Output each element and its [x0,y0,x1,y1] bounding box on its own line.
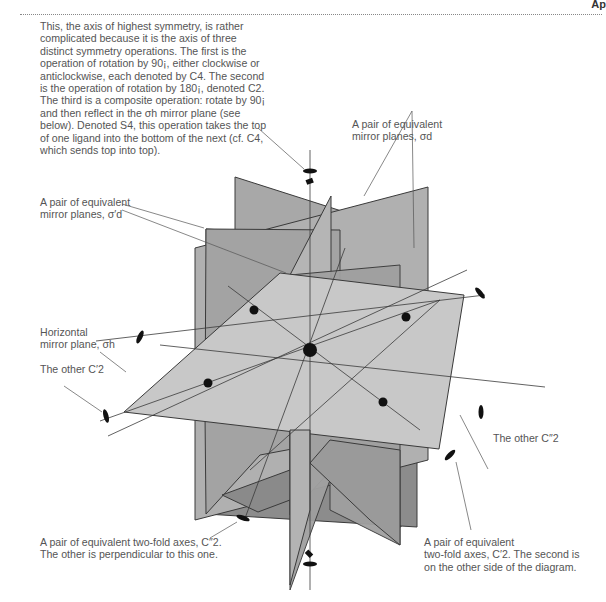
c2-axis-symbol [479,405,484,419]
c2-axis-symbol [443,448,456,461]
c2-axis-symbol [135,330,145,345]
ligand-atom [204,379,213,388]
sigma-d-annotation: A pair of equivalent mirror planes, σd [352,118,442,143]
other-c2-prime-annotation: The other C′2 [40,363,104,375]
c4-axis-symbol-top [303,169,317,174]
c2-axis-symbol [102,409,110,424]
c4-axis-symbol-bottom [303,562,317,567]
horizontal-mirror-annotation: Horizontal mirror plane, σh [40,326,115,351]
c2-axis-symbol [474,286,487,300]
ligand-atom [379,398,388,407]
ligand-atom [402,313,411,322]
c2-double-prime-pair-annotation: A pair of equivalent two-fold axes, C″2.… [40,536,222,561]
c2-prime-pair-annotation: A pair of equivalent two-fold axes, C′2.… [424,536,579,573]
horizontal-mirror-plane [124,273,464,449]
sigma-d-prime-annotation: A pair of equivalent mirror planes, σ′d [40,196,130,221]
s4-axis-symbol-bottom [305,549,313,557]
other-c2-double-prime-annotation: The other C″2 [493,432,559,444]
s4-axis-symbol-top [305,178,313,185]
ligand-atom [250,306,259,315]
central-atom [303,343,317,357]
main-axis-annotation: This, the axis of highest symmetry, is r… [40,20,266,156]
